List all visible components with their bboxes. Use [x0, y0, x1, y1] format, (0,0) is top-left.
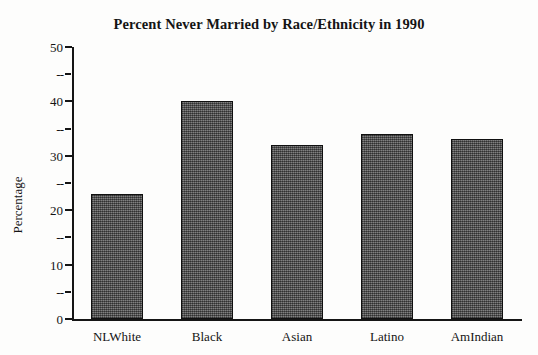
x-axis-line	[72, 319, 522, 321]
y-tick-minor-label: --	[56, 285, 63, 298]
y-tick-label: 30	[50, 149, 63, 162]
y-tick-minor-label: --	[56, 231, 63, 244]
x-tick-label-latino: Latino	[370, 329, 404, 345]
y-tick-major	[65, 264, 72, 266]
y-tick-minor	[65, 291, 71, 293]
y-tick-major	[65, 155, 72, 157]
y-axis-label-text: Percentage	[10, 150, 26, 260]
y-tick-minor	[65, 182, 71, 184]
y-tick-major	[65, 100, 72, 102]
y-tick-major	[65, 318, 72, 320]
x-tick-label-asian: Asian	[282, 329, 312, 345]
y-tick-label: 50	[50, 41, 63, 54]
bar-asian	[271, 145, 323, 319]
y-axis-line	[72, 47, 74, 321]
bar-chart-figure: Percent Never Married by Race/Ethnicity …	[0, 0, 538, 355]
y-tick-label: 40	[50, 95, 63, 108]
bar-amindian	[451, 139, 503, 319]
chart-title: Percent Never Married by Race/Ethnicity …	[0, 16, 538, 33]
y-tick-label: 0	[57, 313, 64, 326]
y-tick-minor	[65, 236, 71, 238]
x-tick-label-amindian: AmIndian	[451, 329, 504, 345]
x-tick-label-nlwhite: NLWhite	[93, 329, 141, 345]
y-tick-major	[65, 46, 72, 48]
y-tick-minor	[65, 73, 71, 75]
y-axis-label: Percentage	[10, 40, 26, 150]
x-tick-label-black: Black	[192, 329, 222, 345]
y-tick-major	[65, 209, 72, 211]
bar-latino	[361, 134, 413, 319]
bar-nlwhite	[91, 194, 143, 319]
y-tick-minor-label: --	[56, 122, 63, 135]
bar-black	[181, 101, 233, 319]
y-tick-label: 10	[50, 258, 63, 271]
y-tick-minor	[65, 128, 71, 130]
plot-area: 01020304050---------- NLWhiteBlackAsianL…	[72, 47, 522, 321]
y-tick-minor-label: --	[56, 68, 63, 81]
y-tick-label: 20	[50, 204, 63, 217]
y-tick-minor-label: --	[56, 177, 63, 190]
